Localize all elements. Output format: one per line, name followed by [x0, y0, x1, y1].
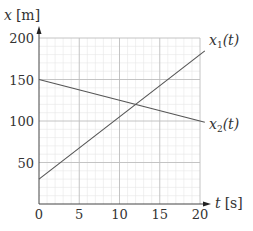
series-line-x1 — [39, 51, 205, 179]
x-tick-labels: 05101520 — [35, 207, 208, 222]
x-axis-arrow-icon — [203, 202, 211, 207]
y-tick-labels: 50100150200 — [9, 31, 34, 171]
y-tick-label: 200 — [9, 31, 34, 46]
x-tick-label: 20 — [192, 207, 209, 222]
x-tick-label: 0 — [35, 207, 43, 222]
x-axis-label: t[s] — [215, 195, 243, 211]
x-tick-label: 10 — [111, 207, 128, 222]
series-label-x1: x1(t) — [209, 32, 239, 50]
y-tick-label: 100 — [9, 114, 34, 129]
x-tick-label: 15 — [151, 207, 168, 222]
y-tick-label: 50 — [17, 156, 34, 171]
chart-canvas: 50100150200 05101520 x[m] t[s] x1(t) x2(… — [0, 0, 253, 231]
y-axis-arrow-icon — [37, 26, 42, 34]
x-tick-label: 5 — [75, 207, 83, 222]
y-axis-label: x[m] — [4, 7, 40, 23]
y-tick-label: 150 — [9, 73, 34, 88]
series-label-x2: x2(t) — [209, 116, 239, 134]
series-line-x2 — [39, 80, 205, 123]
